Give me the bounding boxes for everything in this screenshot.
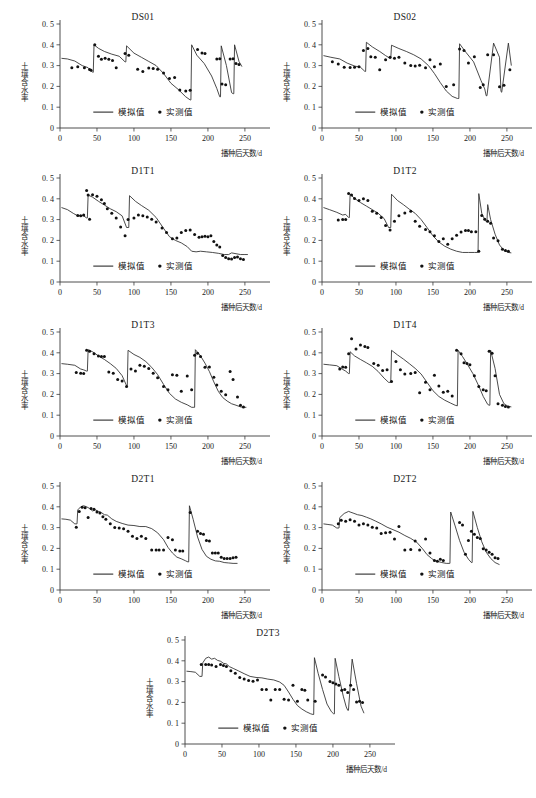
plot-area: 00. 10. 20. 30. 40. 5050100150200250模拟值实… [18,314,268,466]
legend-label-simulated: 模拟值 [380,107,407,117]
x-tick-label: 0 [58,442,62,451]
y-tick-label: 0 [50,432,54,441]
legend-label-measured: 实测值 [166,569,193,579]
legend-label-simulated: 模拟值 [380,415,407,425]
y-tick-label: 0. 2 [304,82,316,91]
x-tick-label: 100 [390,288,402,297]
x-tick-label: 200 [202,596,214,605]
y-tick-label: 0 [175,740,179,749]
chart-panel-d1t1: D1T1土壤含水率播种后天数/d00. 10. 20. 30. 40. 5050… [18,160,268,312]
legend: 模拟值实测值 [218,723,317,733]
x-tick-label: 250 [364,750,376,759]
chart-panel-d2t1: D2T1土壤含水率播种后天数/d00. 10. 20. 30. 40. 5050… [18,468,268,620]
y-tick-label: 0. 2 [42,544,54,553]
x-tick-label: 0 [320,442,324,451]
y-tick-label: 0. 1 [304,565,316,574]
x-tick-label: 250 [239,288,251,297]
legend: 模拟值实测值 [355,415,454,425]
x-tick-label: 50 [355,442,363,451]
legend-label-measured: 实测值 [428,261,455,271]
plot-area: 00. 10. 20. 30. 40. 5050100150200250模拟值实… [18,6,268,158]
y-tick-label: 0. 5 [42,328,54,337]
plot-area: 00. 10. 20. 30. 40. 5050100150200250模拟值实… [143,622,393,774]
legend: 模拟值实测值 [355,107,454,117]
x-tick-label: 200 [464,596,476,605]
x-tick-label: 250 [501,596,513,605]
y-tick-label: 0. 1 [42,411,54,420]
y-tick-label: 0. 4 [42,41,54,50]
x-tick-label: 150 [165,288,177,297]
legend: 模拟值实测值 [93,261,192,271]
y-tick-label: 0. 3 [304,61,316,70]
x-tick-label: 150 [165,596,177,605]
x-tick-label: 0 [183,750,187,759]
y-tick-label: 0. 3 [304,215,316,224]
x-tick-label: 100 [128,134,140,143]
y-tick-label: 0. 2 [304,236,316,245]
plot-area: 00. 10. 20. 30. 40. 5050100150200250模拟值实… [280,6,530,158]
y-tick-label: 0. 4 [42,195,54,204]
x-tick-label: 150 [427,288,439,297]
chart-panel-d2t3: D2T3土壤含水率播种后天数/d00. 10. 20. 30. 40. 5050… [143,622,393,774]
legend-label-measured: 实测值 [166,415,193,425]
y-tick-label: 0. 4 [304,41,316,50]
y-tick-label: 0 [50,278,54,287]
y-tick-label: 0. 5 [304,328,316,337]
x-tick-label: 0 [58,596,62,605]
y-tick-label: 0. 4 [42,349,54,358]
y-tick-label: 0. 5 [304,482,316,491]
legend-label-simulated: 模拟值 [118,261,145,271]
x-tick-label: 50 [93,596,101,605]
y-tick-label: 0. 2 [167,698,179,707]
y-tick-label: 0 [312,124,316,133]
x-tick-label: 0 [320,596,324,605]
x-tick-label: 50 [93,288,101,297]
x-tick-label: 150 [427,134,439,143]
y-tick-label: 0. 4 [167,657,179,666]
plot-area: 00. 10. 20. 30. 40. 5050100150200250模拟值实… [280,314,530,466]
y-tick-label: 0. 1 [304,103,316,112]
y-tick-label: 0. 2 [304,544,316,553]
x-tick-label: 50 [218,750,226,759]
figure-panel-grid: DS01土壤含水率播种后天数/d00. 10. 20. 30. 40. 5050… [0,0,536,798]
measured-points [331,47,512,89]
x-tick-label: 200 [464,134,476,143]
x-tick-label: 250 [239,596,251,605]
y-tick-label: 0. 3 [42,215,54,224]
simulated-line [323,42,511,98]
y-tick-label: 0. 4 [304,195,316,204]
simulated-line [323,194,511,253]
x-tick-label: 250 [501,442,513,451]
chart-panel-d1t4: D1T4土壤含水率播种后天数/d00. 10. 20. 30. 40. 5050… [280,314,530,466]
x-tick-label: 50 [355,596,363,605]
y-tick-label: 0. 5 [42,482,54,491]
legend-label-simulated: 模拟值 [118,415,145,425]
x-tick-label: 250 [501,288,513,297]
x-tick-label: 150 [427,596,439,605]
y-tick-label: 0. 1 [42,103,54,112]
legend-label-simulated: 模拟值 [380,261,407,271]
y-tick-label: 0. 3 [42,523,54,532]
y-tick-label: 0. 2 [304,390,316,399]
x-tick-label: 100 [128,288,140,297]
y-tick-label: 0 [312,586,316,595]
y-tick-label: 0. 3 [304,523,316,532]
y-tick-label: 0. 1 [167,719,179,728]
y-tick-label: 0. 2 [42,390,54,399]
y-tick-label: 0. 1 [304,411,316,420]
x-tick-label: 150 [427,442,439,451]
x-tick-label: 50 [355,134,363,143]
y-tick-label: 0. 3 [167,677,179,686]
simulated-line [61,45,241,100]
y-tick-label: 0 [50,586,54,595]
x-tick-label: 200 [202,288,214,297]
legend-label-simulated: 模拟值 [243,723,270,733]
legend-label-simulated: 模拟值 [118,569,145,579]
legend-label-measured: 实测值 [166,107,193,117]
chart-panel-d1t3: D1T3土壤含水率播种后天数/d00. 10. 20. 30. 40. 5050… [18,314,268,466]
simulated-line [61,350,246,408]
y-tick-label: 0. 5 [167,636,179,645]
y-tick-label: 0. 5 [304,20,316,29]
y-tick-label: 0. 1 [42,565,54,574]
y-tick-label: 0. 4 [42,503,54,512]
